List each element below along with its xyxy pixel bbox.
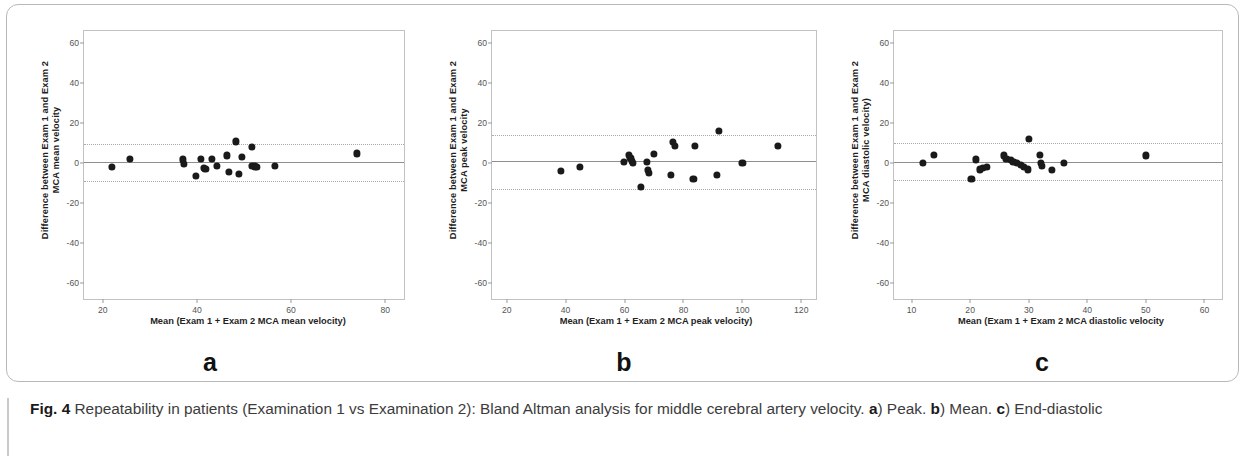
data-point: [1142, 152, 1149, 159]
x-axis-tick-label: 120: [794, 305, 808, 315]
data-point: [1049, 167, 1056, 174]
y-axis-tick-mark: [80, 243, 84, 244]
data-point: [983, 163, 990, 170]
data-point: [192, 173, 199, 180]
panel-a-y-axis-title-line2: MCA mean velocity: [51, 24, 62, 276]
panel-c: Difference between Exam 1 and Exam 2 MCA…: [832, 0, 1232, 345]
x-axis-tick-label: 60: [620, 305, 630, 315]
data-point: [253, 163, 260, 170]
figure-caption-label: Fig. 4: [30, 400, 70, 417]
panel-c-y-axis-title-line1: Difference between Exam 1 and Exam 2: [850, 24, 861, 276]
data-point: [223, 152, 230, 159]
data-point: [1025, 135, 1032, 142]
y-axis-tick-mark: [890, 163, 894, 164]
figure-caption-c-label: c: [996, 400, 1005, 417]
y-axis-tick-mark: [80, 43, 84, 44]
figure-caption: Fig. 4 Repeatability in patients (Examin…: [30, 396, 1220, 421]
plots-row: Difference between Exam 1 and Exam 2 MCA…: [0, 0, 1245, 345]
data-point: [180, 161, 187, 168]
data-point: [739, 159, 746, 166]
panel-b-x-axis-title: Mean (Exam 1 + Exam 2 MCA peak velocity): [491, 316, 821, 326]
data-point: [214, 162, 221, 169]
x-axis-tick-mark: [1087, 299, 1088, 303]
x-axis-tick-mark: [801, 299, 802, 303]
x-axis-tick-mark: [1145, 299, 1146, 303]
data-point: [271, 163, 278, 170]
y-axis-tick-mark: [80, 283, 84, 284]
panel-a-y-axis-title: Difference between Exam 1 and Exam 2 MCA…: [40, 24, 58, 276]
x-axis-tick-label: 60: [1200, 305, 1210, 315]
x-axis-tick-mark: [291, 299, 292, 303]
data-point: [557, 167, 564, 174]
x-axis-tick-label: 40: [561, 305, 571, 315]
y-axis-tick-mark: [488, 243, 492, 244]
data-point: [643, 158, 650, 165]
mean-difference-line: [84, 162, 404, 163]
lower-limit-of-agreement-line: [492, 189, 816, 190]
x-axis-tick-label: 100: [735, 305, 749, 315]
data-point: [629, 159, 636, 166]
panel-b: Difference between Exam 1 and Exam 2 MCA…: [430, 0, 830, 345]
y-axis-tick-mark: [488, 123, 492, 124]
data-point: [646, 169, 653, 176]
data-point: [715, 127, 722, 134]
x-axis-tick-mark: [506, 299, 507, 303]
panel-b-y-axis-title: Difference between Exam 1 and Exam 2 MCA…: [448, 24, 466, 276]
lower-limit-of-agreement-line: [894, 180, 1222, 181]
data-point: [109, 163, 116, 170]
data-point: [671, 142, 678, 149]
figure-caption-c-text: ) End-diastolic: [1005, 400, 1103, 417]
panel-c-y-axis-title: Difference between Exam 1 and Exam 2 MCA…: [850, 24, 868, 276]
x-axis-tick-label: 40: [192, 305, 202, 315]
data-point: [235, 171, 242, 178]
y-axis-tick-mark: [80, 203, 84, 204]
data-point: [920, 159, 927, 166]
x-axis-tick-mark: [196, 299, 197, 303]
panel-a-plot-area: 6040200-20-40-6020406080: [83, 30, 405, 300]
x-axis-tick-label: 80: [380, 305, 390, 315]
panel-b-y-axis-title-line1: Difference between Exam 1 and Exam 2: [448, 24, 459, 276]
y-axis-tick-mark: [890, 243, 894, 244]
mean-difference-line: [894, 162, 1222, 163]
y-axis-tick-mark: [488, 83, 492, 84]
x-axis-tick-label: 20: [502, 305, 512, 315]
figure-caption-b-label: b: [931, 400, 940, 417]
x-axis-tick-mark: [1028, 299, 1029, 303]
data-point: [1036, 151, 1043, 158]
x-axis-tick-label: 40: [1083, 305, 1093, 315]
data-point: [968, 175, 975, 182]
y-axis-tick-mark: [488, 43, 492, 44]
y-axis-tick-mark: [80, 123, 84, 124]
panel-a: Difference between Exam 1 and Exam 2 MCA…: [22, 0, 422, 345]
x-axis-tick-label: 50: [1141, 305, 1151, 315]
x-axis-tick-label: 20: [98, 305, 108, 315]
lower-limit-of-agreement-line: [84, 181, 404, 182]
data-point: [667, 171, 674, 178]
y-axis-tick-mark: [80, 163, 84, 164]
data-point: [774, 143, 781, 150]
data-point: [650, 151, 657, 158]
x-axis-tick-mark: [385, 299, 386, 303]
data-point: [248, 144, 255, 151]
data-point: [930, 151, 937, 158]
y-axis-tick-mark: [890, 123, 894, 124]
data-point: [1060, 159, 1067, 166]
figure-caption-text: Repeatability in patients (Examination 1…: [70, 400, 869, 417]
figure-container: Difference between Exam 1 and Exam 2 MCA…: [0, 0, 1245, 462]
x-axis-tick-label: 20: [965, 305, 975, 315]
x-axis-tick-label: 30: [1024, 305, 1034, 315]
caption-left-rule: [7, 398, 9, 456]
panel-b-plot-area: 6040200-20-40-6020406080100120: [491, 30, 817, 300]
panel-c-x-axis-title: Mean (Exam 1 + Exam 2 MCA diastolic velo…: [893, 316, 1229, 326]
data-point: [1024, 166, 1031, 173]
x-axis-tick-mark: [1204, 299, 1205, 303]
data-point: [692, 143, 699, 150]
data-point: [353, 150, 360, 157]
data-point: [1038, 162, 1045, 169]
data-point: [576, 163, 583, 170]
y-axis-tick-mark: [890, 43, 894, 44]
x-axis-tick-mark: [742, 299, 743, 303]
y-axis-tick-mark: [488, 283, 492, 284]
y-axis-tick-mark: [890, 283, 894, 284]
x-axis-tick-mark: [911, 299, 912, 303]
